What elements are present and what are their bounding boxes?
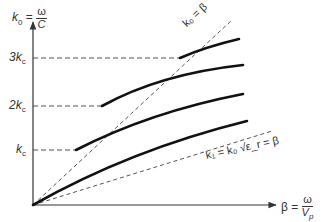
tick-kc: kc — [16, 143, 26, 158]
tick-2kc-coef: 2k — [9, 98, 22, 112]
axes — [32, 22, 276, 206]
mode-curves — [33, 39, 247, 205]
tick-kc-sub: c — [22, 149, 26, 158]
x-label-fraction: ω Vp — [302, 194, 314, 221]
y-label-sub: 0 — [18, 18, 22, 27]
tick-2kc: 2kc — [9, 99, 26, 114]
y-label-denominator: C — [37, 19, 45, 31]
mode-3-curve — [102, 65, 243, 106]
mode-4-curve — [180, 39, 239, 58]
tick-3kc-sub: c — [22, 57, 26, 66]
x-label-den-v: V — [302, 206, 309, 218]
mode-1-curve — [33, 121, 247, 205]
equals-sign: = — [291, 200, 298, 214]
x-label-den-sub: p — [309, 212, 313, 221]
reference-lines — [33, 20, 272, 205]
dispersion-diagram — [0, 0, 321, 222]
x-label-beta: β — [281, 200, 288, 214]
x-axis-label: β = ω Vp — [281, 194, 313, 221]
y-label-numerator: ω — [36, 6, 47, 19]
equals-sign: = — [26, 10, 33, 24]
tick-2kc-sub: c — [22, 105, 26, 114]
light-line — [33, 20, 232, 205]
tick-3kc: 3kc — [9, 51, 26, 66]
y-axis-label: k0 = ω C — [12, 6, 47, 30]
tick-3kc-coef: 3k — [9, 50, 22, 64]
x-label-denominator: Vp — [302, 207, 314, 222]
y-label-fraction: ω C — [36, 6, 47, 30]
